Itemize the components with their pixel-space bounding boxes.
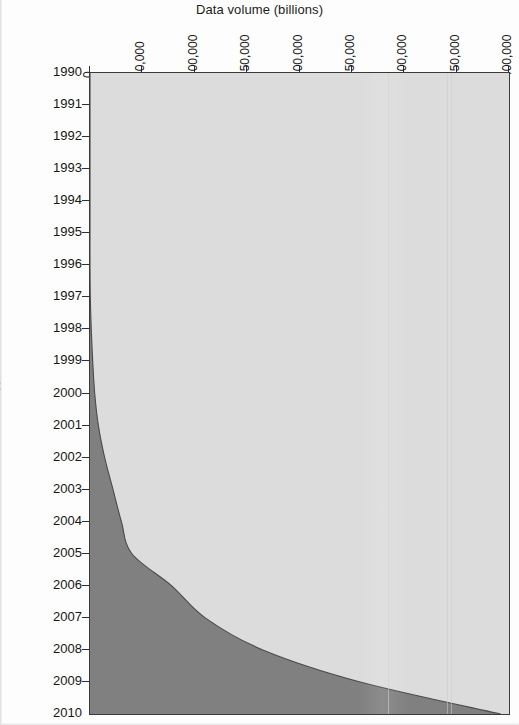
y-axis-tick bbox=[82, 489, 89, 490]
y-axis-tick bbox=[82, 521, 89, 522]
y-axis-tick bbox=[82, 585, 89, 586]
y-axis-tick-label: 1992 bbox=[40, 129, 82, 142]
y-axis-tick-label: 2008 bbox=[40, 642, 82, 655]
y-axis-tick-label: 1990 bbox=[40, 65, 82, 78]
y-axis-tick bbox=[82, 328, 89, 329]
y-axis-tick-label: 2002 bbox=[40, 450, 82, 463]
y-axis-tick-label: 2000 bbox=[40, 386, 82, 399]
y-axis-tick-label: 1997 bbox=[40, 289, 82, 302]
scan-edge-left bbox=[0, 0, 2, 725]
y-axis-tick-label: 1993 bbox=[40, 161, 82, 174]
y-axis-tick bbox=[82, 232, 89, 233]
y-axis-tick bbox=[82, 104, 89, 105]
y-axis-tick-label: 2006 bbox=[40, 578, 82, 591]
plot-area bbox=[89, 72, 510, 715]
y-axis-tick-label: 2009 bbox=[40, 674, 82, 687]
y-axis-tick bbox=[82, 168, 89, 169]
chart-title: Data volume (billions) bbox=[0, 2, 519, 17]
area-chart-svg bbox=[90, 73, 509, 714]
y-axis-tick bbox=[82, 649, 89, 650]
y-axis-tick bbox=[82, 457, 89, 458]
y-axis-tick bbox=[82, 264, 89, 265]
y-axis-tick bbox=[82, 136, 89, 137]
y-axis-tick-label: 2004 bbox=[40, 514, 82, 527]
y-axis-tick bbox=[82, 200, 89, 201]
y-axis-tick-label: 1996 bbox=[40, 257, 82, 270]
y-axis-tick-label: 1998 bbox=[40, 321, 82, 334]
y-axis-tick-label: 1994 bbox=[40, 193, 82, 206]
y-axis-tick bbox=[82, 360, 89, 361]
y-axis-tick bbox=[82, 393, 89, 394]
y-axis-tick bbox=[82, 681, 89, 682]
y-axis-tick bbox=[82, 553, 89, 554]
y-axis-tick-label: 1991 bbox=[40, 97, 82, 110]
y-axis-tick-label: 1999 bbox=[40, 353, 82, 366]
y-axis-tick-label: 2010 bbox=[40, 706, 82, 719]
y-axis-tick-label: 2007 bbox=[40, 610, 82, 623]
y-axis-tick-label: 2001 bbox=[40, 418, 82, 431]
y-axis-title: Year bbox=[0, 382, 2, 406]
y-axis-tick bbox=[82, 617, 89, 618]
y-axis-tick-label: 1995 bbox=[40, 225, 82, 238]
y-axis-tick-label: 2003 bbox=[40, 482, 82, 495]
y-axis-tick-label: 2005 bbox=[40, 546, 82, 559]
y-axis-tick bbox=[82, 296, 89, 297]
y-axis-tick bbox=[82, 425, 89, 426]
chart-figure: Data volume (billions) 050,000100,000150… bbox=[0, 0, 519, 725]
